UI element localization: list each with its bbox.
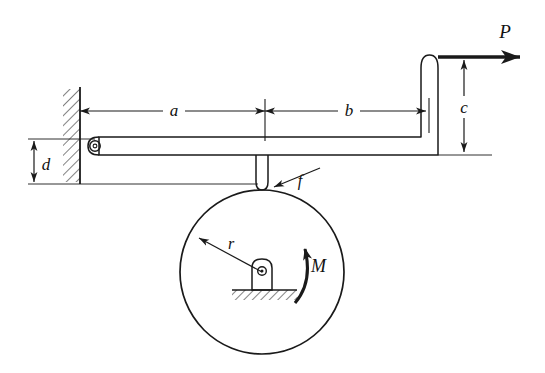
diagram-canvas: P a b c d f r M — [0, 0, 545, 373]
wall-support — [63, 87, 80, 184]
horizontal-lever — [88, 55, 438, 155]
label-dim-c: c — [460, 98, 468, 117]
label-dim-a: a — [170, 101, 179, 120]
label-radius-r: r — [228, 235, 235, 252]
label-force-p: P — [498, 21, 511, 42]
label-dim-d: d — [42, 155, 51, 174]
drum-pin-support — [252, 259, 272, 290]
ground-hatching — [232, 290, 297, 300]
brake-lever-diagram: P a b c d f r M — [0, 0, 545, 373]
label-dim-b: b — [345, 101, 354, 120]
label-moment-m: M — [310, 256, 327, 276]
dimension-d — [28, 139, 258, 184]
brake-shoe — [256, 155, 268, 190]
dimension-a-b — [80, 98, 429, 141]
